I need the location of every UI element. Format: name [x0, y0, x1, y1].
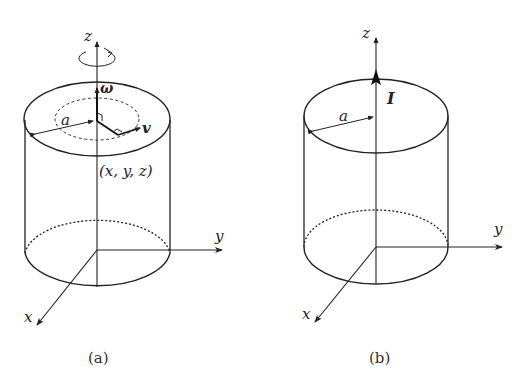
y-label-b: y	[493, 220, 503, 238]
right-angle-mark-point	[113, 129, 122, 132]
radius-label-a: a	[61, 111, 70, 129]
panel-a: z y x a ω v (x, y, z) (a)	[24, 27, 224, 367]
x-axis-a	[37, 250, 97, 325]
y-label-a: y	[214, 227, 224, 245]
caption-a: (a)	[88, 349, 109, 367]
radius-label-b: a	[339, 107, 348, 125]
diagram-canvas: z y x a ω v (x, y, z) (a)	[0, 0, 530, 391]
point-label: (x, y, z)	[99, 162, 153, 180]
cylinder-diagrams: z y x a ω v (x, y, z) (a)	[0, 0, 530, 391]
x-label-b: x	[302, 305, 311, 323]
z-label-b: z	[361, 24, 370, 42]
omega-label: ω	[100, 80, 114, 96]
current-label: I	[386, 89, 395, 108]
x-axis-b	[315, 247, 376, 322]
z-label-a: z	[83, 27, 92, 45]
radial-line	[97, 121, 118, 135]
velocity-label: v	[142, 119, 151, 137]
panel-b: z y x a I (b)	[302, 24, 503, 367]
x-label-a: x	[24, 308, 33, 326]
caption-b: (b)	[369, 349, 390, 367]
